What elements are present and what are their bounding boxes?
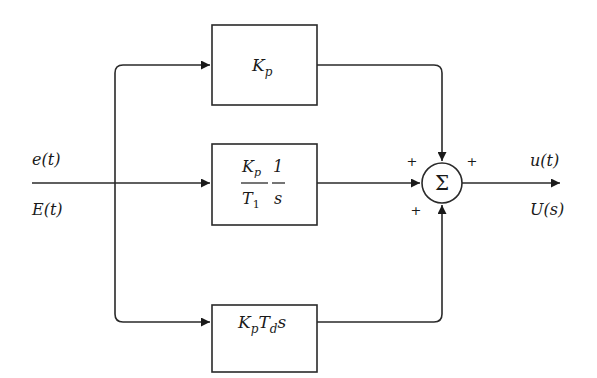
integral-denominator-s: s [274, 189, 282, 208]
input-time-label: e(t) [32, 150, 60, 169]
derivative-block: KpTds [212, 305, 317, 372]
sign-plus-left-top: + [407, 154, 418, 169]
proportional-output-line [317, 65, 442, 161]
input-laplace-label: E(t) [31, 200, 63, 219]
branch-to-proportional [115, 65, 210, 183]
proportional-block: Kp [212, 25, 317, 105]
output-time-label: u(t) [530, 151, 559, 170]
integral-numerator-one: 1 [273, 157, 283, 176]
sigma-icon: Σ [435, 171, 449, 195]
sign-plus-right-top: + [467, 154, 478, 169]
sign-plus-left-bottom: + [411, 203, 422, 218]
output-laplace-label: U(s) [530, 200, 564, 219]
integral-block: Kp T1 1 s [212, 144, 317, 225]
branch-to-derivative [115, 183, 210, 322]
pid-block-diagram: e(t) E(t) Kp Kp T1 1 s KpTds Σ [0, 0, 597, 378]
summing-junction: Σ [422, 163, 462, 203]
derivative-output-line [317, 205, 442, 322]
